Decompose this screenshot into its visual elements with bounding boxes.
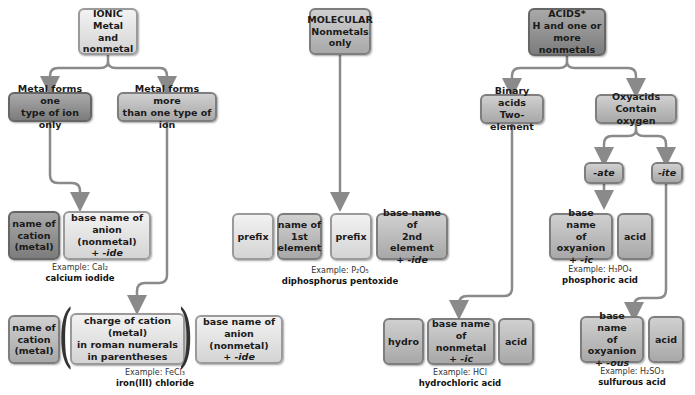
ionic-header: IONIC Metal and nonmetal: [78, 8, 138, 55]
ionic-one-type-box: Metal forms one type of ion only: [8, 92, 92, 122]
example-formula: Example: FeCl₃: [95, 368, 215, 378]
ite-box: -ite: [651, 162, 683, 184]
ate-acid-box: acid: [617, 213, 653, 260]
ionic-more-cation-box: name of cation (metal): [8, 315, 60, 364]
ate-base-box: base name of oxyanion + -ic: [549, 213, 613, 260]
binary-suffix: + -ic: [449, 353, 473, 365]
second-element-suffix: + -ide: [396, 254, 428, 266]
anion-label: base name of anion (nonmetal): [67, 212, 147, 248]
oxyacids-box: Oxyacids Contain oxygen: [595, 94, 677, 124]
molecular-prefix1-box: prefix: [232, 213, 274, 260]
ite-base-label: base name of oxyanion: [584, 310, 640, 358]
example-name: calcium iodide: [45, 273, 114, 283]
example-name: diphosphorus pentoxide: [282, 276, 398, 286]
binary-example: Example: HCl hydrochloric acid: [400, 368, 520, 389]
molecular-example: Example: P₂O₅ diphosphorus pentoxide: [260, 266, 420, 287]
example-name: iron(III) chloride: [116, 378, 194, 388]
ionic-more-types-box: Metal forms more than one type of ion: [117, 92, 217, 122]
example-formula: Example: H₃PO₄: [540, 265, 660, 275]
ate-example: Example: H₃PO₄ phosphoric acid: [540, 265, 660, 286]
ionic-one-anion-box: base name of anion (nonmetal) + -ide: [63, 211, 151, 260]
example-formula: Example: CaI₂: [0, 263, 160, 273]
example-name: sulfurous acid: [598, 377, 666, 387]
binary-acid-box: acid: [498, 318, 534, 365]
ite-base-box: base name of oxyanion + -ous: [580, 316, 644, 363]
example-formula: Example: H₂SO₃: [572, 367, 692, 377]
molecular-second-element-box: base name of 2nd element + -ide: [376, 213, 448, 260]
ite-example: Example: H₂SO₃ sulfurous acid: [572, 367, 692, 388]
binary-base-label: base name of nonmetal: [431, 318, 491, 354]
anion-suffix: + -ide: [91, 247, 123, 259]
second-element-label: base name of 2nd element: [380, 207, 444, 255]
example-formula: Example: P₂O₅: [260, 266, 420, 276]
molecular-header: MOLECULAR Nonmetals only: [309, 8, 371, 55]
ionic-one-example: Example: CaI₂ calcium iodide: [0, 263, 160, 284]
ionic-more-example: Example: FeCl₃ iron(III) chloride: [95, 368, 215, 389]
right-parenthesis: ): [178, 300, 193, 370]
binary-base-box: base name of nonmetal + -ic: [427, 318, 495, 365]
ate-box: -ate: [584, 162, 624, 184]
ionic-charge-box: charge of cation (metal) in roman numera…: [70, 313, 185, 365]
example-name: hydrochloric acid: [419, 378, 501, 388]
hydro-box: hydro: [383, 318, 424, 365]
ate-base-label: base name of oxyanion: [553, 207, 609, 255]
example-name: phosphoric acid: [562, 275, 638, 285]
example-formula: Example: HCl: [400, 368, 520, 378]
ionic-more-anion-box: base name of anion (nonmetal) + -ide: [195, 315, 283, 364]
anion-label: base name of anion (nonmetal): [199, 316, 279, 352]
acids-header: ACIDS* H and one or more nonmetals: [528, 8, 606, 56]
binary-acids-box: Binary acids Two-element: [480, 94, 544, 124]
molecular-first-element-box: name of 1st element: [277, 213, 322, 260]
anion-suffix: + -ide: [223, 351, 255, 363]
molecular-prefix2-box: prefix: [330, 213, 372, 260]
ite-acid-box: acid: [648, 316, 684, 363]
ionic-one-cation-box: name of cation (metal): [8, 211, 60, 260]
